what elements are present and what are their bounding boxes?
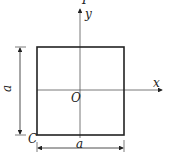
y-axis-label: y xyxy=(84,7,92,21)
corner-label: C xyxy=(28,132,37,146)
cross-section-diagram: P y x O C a a xyxy=(0,0,169,165)
x-axis-label: x xyxy=(153,76,160,90)
height-dimension-label: a xyxy=(0,85,14,92)
width-dimension-label: a xyxy=(76,137,83,151)
origin-label: O xyxy=(71,91,81,105)
load-label: P xyxy=(81,0,91,7)
height-dimension xyxy=(15,47,26,135)
